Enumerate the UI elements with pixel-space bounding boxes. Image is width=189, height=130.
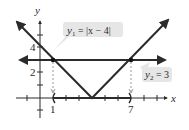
- y2-label-rhs: = 3: [153, 69, 169, 80]
- x-axis-label: x: [170, 92, 176, 104]
- tick-label-y2: 2: [30, 66, 36, 78]
- intersection-point-1: [51, 58, 56, 63]
- tick-label-y4: 4: [30, 41, 36, 53]
- callout-y2: y2 = 3: [140, 62, 172, 82]
- svg-text:y2 = 3: y2 = 3: [144, 68, 169, 82]
- y-axis-label: y: [34, 4, 40, 16]
- y1-label-rhs: = |x − 4|: [75, 25, 110, 36]
- tick-label-x1: 1: [50, 103, 56, 115]
- intersection-point-7: [129, 58, 134, 63]
- callout-y1: y1 = |x − 4|: [54, 22, 123, 50]
- graph: y1 = |x − 4| y2 = 3 y x 4 2 1 7: [0, 0, 189, 130]
- tick-label-x7: 7: [128, 103, 134, 115]
